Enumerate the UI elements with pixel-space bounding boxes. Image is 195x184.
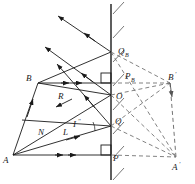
incident-ray-L-arrow <box>66 136 80 140</box>
label-N: N <box>37 127 45 137</box>
label-P: P <box>112 153 119 163</box>
label-I-primes: '' <box>78 118 81 124</box>
virtual-rays-group <box>111 52 176 157</box>
object-segment-A-B-arrow <box>27 99 33 117</box>
label-B-prime: B ' <box>168 71 177 82</box>
label-B-prime-base: B <box>168 72 174 82</box>
normal-line-N <box>22 120 111 126</box>
reflected-ray-QB <box>58 16 111 52</box>
virtual-ray-P-Aprime <box>111 155 176 157</box>
image-segment-group <box>170 83 176 157</box>
right-angle-marker-PB <box>101 73 111 83</box>
right-angle-markers <box>101 73 111 155</box>
label-L: L <box>62 127 68 137</box>
label-A-prime-mark: ' <box>179 161 181 167</box>
right-angle-marker-P <box>101 145 111 155</box>
incident-ray-A-Q <box>13 126 111 155</box>
label-A-prime-base: A <box>171 162 178 172</box>
angle-arc-I <box>93 122 95 131</box>
image-segment-Aprime-Bprime <box>170 83 176 157</box>
reflected-ray-QB-midarrow <box>84 33 95 41</box>
incident-ray-B-QB <box>38 52 111 83</box>
label-R: R <box>57 91 64 101</box>
label-B: B <box>26 73 32 83</box>
label-B-prime-mark: ' <box>175 71 177 77</box>
reflected-ray-Q-midarrow <box>84 95 95 108</box>
reflected-ray-O-midarrow <box>81 73 93 82</box>
label-Q-B-base: Q <box>118 46 125 56</box>
label-P-B: P B <box>124 71 135 83</box>
label-P-B-base: P <box>124 71 131 81</box>
label-Q-B-subscript: B <box>125 52 129 58</box>
label-O: O <box>116 91 123 101</box>
label-P-B-subscript: B <box>131 77 135 83</box>
label-Q: Q <box>115 116 122 126</box>
object-rays-group <box>13 16 111 155</box>
reflection-diagram-figure: A B O P Q Q B P B N L R I '' B ' <box>0 0 195 184</box>
label-A-prime: A ' <box>171 161 181 172</box>
incident-ray-B-O <box>38 83 111 95</box>
object-segment-A-B <box>13 83 38 155</box>
label-A: A <box>2 155 9 165</box>
diagram-canvas: A B O P Q Q B P B N L R I '' B ' <box>0 0 195 184</box>
